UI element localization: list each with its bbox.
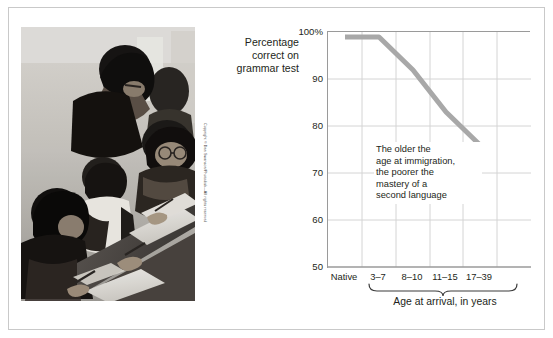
age-group-brace-graphic xyxy=(367,283,519,297)
y-axis-title-line-2: correct on xyxy=(225,49,299,62)
y-tick-label-60: 60 xyxy=(312,214,323,225)
grammar-test-chart: Percentage correct on grammar test 100% … xyxy=(225,25,530,305)
plot-wrapper: 100% 90 80 70 60 50 xyxy=(327,25,530,268)
y-axis-title-line-3: grammar test xyxy=(225,62,299,75)
age-group-brace xyxy=(367,283,519,297)
classroom-photo xyxy=(21,27,195,301)
x-axis-title: Age at arrival, in years xyxy=(355,296,535,307)
y-axis-title: Percentage correct on grammar test xyxy=(225,36,299,76)
y-axis-title-line-1: Percentage xyxy=(225,36,299,49)
photo-credit-text: Copyright © Dan Swanson/Photodisk—All ri… xyxy=(203,123,207,223)
photo-credit: Copyright © Dan Swanson/Photodisk—All ri… xyxy=(196,27,208,301)
y-tick-label-80: 80 xyxy=(312,120,323,131)
x-tick-label-11-15: 11–15 xyxy=(432,271,457,282)
x-tick-label-3-7: 3–7 xyxy=(370,271,386,282)
annotation-line-1: The older the xyxy=(376,144,480,156)
x-tick-label-17-39: 17–39 xyxy=(466,271,492,282)
x-tick-label-8-10: 8–10 xyxy=(402,271,423,282)
figure-container: Copyright © Dan Swanson/Photodisk—All ri… xyxy=(0,0,553,338)
y-tick-label-70: 70 xyxy=(312,167,323,178)
annotation-line-4: mastery of a xyxy=(376,179,480,191)
classroom-photo-graphic xyxy=(21,27,195,301)
data-series-line xyxy=(345,37,480,145)
annotation-line-3: the poorer the xyxy=(376,167,480,179)
y-tick-label-100: 100% xyxy=(298,26,323,37)
annotation-line-2: age at immigration, xyxy=(376,156,480,168)
x-tick-label-native: Native xyxy=(331,271,358,282)
annotation-line-5: second language xyxy=(376,190,480,202)
y-tick-label-50: 50 xyxy=(312,261,323,272)
chart-annotation: The older the age at immigration, the po… xyxy=(374,142,482,204)
classroom-photo-image xyxy=(21,27,195,301)
y-tick-label-90: 90 xyxy=(312,73,323,84)
